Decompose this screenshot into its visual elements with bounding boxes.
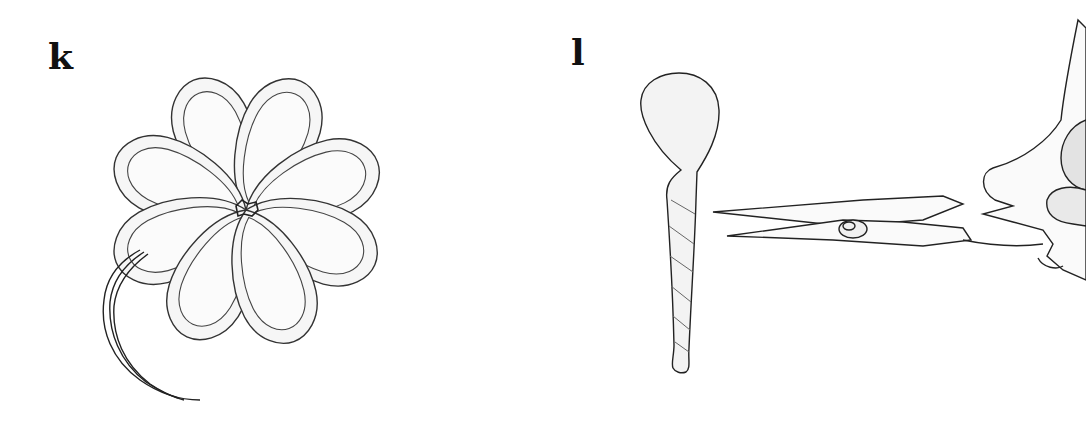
- twisted-ribbon: [641, 73, 719, 373]
- figure-panel-k: k: [0, 0, 540, 426]
- flower-illustration: [0, 0, 540, 426]
- scissors: [713, 196, 971, 246]
- twisted-ribbon-and-scissors-illustration: [543, 0, 1086, 426]
- hand: [963, 20, 1086, 280]
- figure-panel-l: l: [543, 0, 1086, 426]
